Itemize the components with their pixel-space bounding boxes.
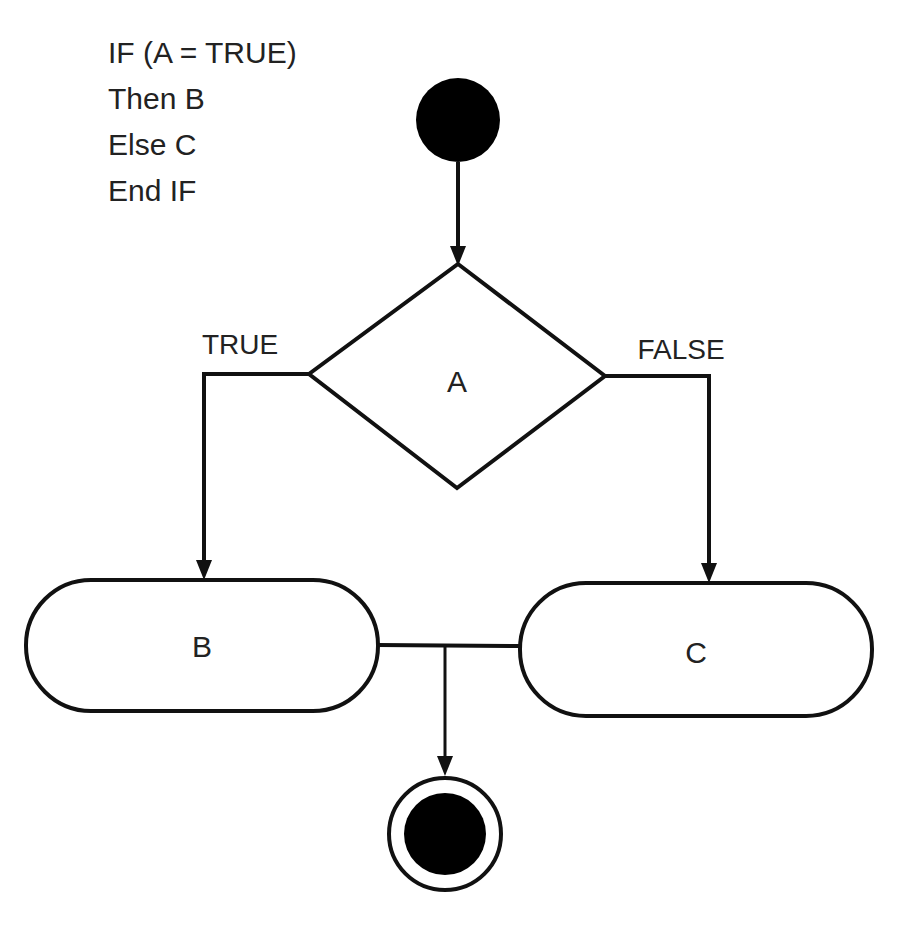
arrowhead-icon [437,756,453,776]
arrowhead-icon [701,563,717,583]
decision-node: A [309,264,605,488]
flow-false-branch [605,376,709,568]
action-node-b: B [26,580,378,711]
action-label-b: B [192,630,212,663]
final-node [389,778,501,890]
initial-node [416,78,500,162]
activity-diagram: A TRUE FALSE B C [0,0,908,925]
flow-true-branch [204,374,309,565]
decision-label: A [447,365,467,398]
merge-connector [378,645,520,646]
false-branch-label: FALSE [637,334,724,365]
arrowhead-icon [196,560,212,580]
action-label-c: C [685,636,707,669]
action-node-c: C [520,583,872,716]
true-branch-label: TRUE [202,329,278,360]
